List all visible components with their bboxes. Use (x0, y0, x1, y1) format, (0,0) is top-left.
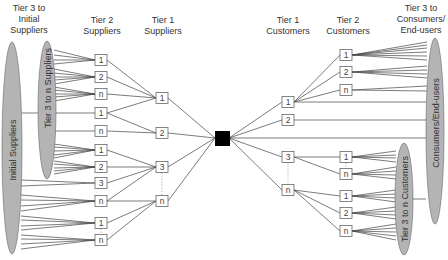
tier2-supplier-node-label: n (99, 196, 104, 206)
tier2-supplier-node-label: 2 (99, 72, 104, 82)
tier1-customer-node: 3 (282, 152, 294, 163)
tier2-supplier-node-label: n (99, 235, 104, 245)
tier2-supplier-node: 1 (95, 55, 107, 66)
tier1-supplier-node-label: 1 (160, 93, 165, 103)
tier1-supplier-node-label: 3 (160, 162, 165, 172)
tier2-supplier-node: n (95, 235, 107, 246)
supply-chain-diagram: Initial Suppliers Tier 3 to n Suppliers … (0, 0, 448, 260)
tier2-supplier-node-label: 1 (99, 108, 104, 118)
tier2-customer-node: 1 (340, 191, 352, 202)
tier3-n-customers-label: Tier 3 to n Customers (400, 155, 410, 242)
tier2-customer-node: 1 (340, 152, 352, 163)
tier1-customer-node-label: 1 (286, 97, 291, 107)
tier2-customer-node-label: 1 (344, 191, 349, 201)
tier2-customer-node: n (340, 226, 352, 237)
tier2-customer-node-label: 1 (344, 50, 349, 60)
tier1-customer-node: n (282, 185, 294, 196)
tier2-supplier-node: n (95, 196, 107, 207)
tier2-supplier-node-label: 1 (99, 145, 104, 155)
tier1-customer-node: 1 (282, 97, 294, 108)
initial-suppliers-ellipse: Initial Suppliers (2, 42, 22, 254)
initial-suppliers-label: Initial Suppliers (8, 119, 18, 181)
tier1-customer-node-label: 3 (286, 152, 291, 162)
tier1-customer-node-label: 2 (286, 115, 291, 125)
tier1-supplier-node: 2 (156, 128, 168, 139)
tier1-supplier-node: 1 (156, 93, 168, 104)
tier2-supplier-node: n (95, 89, 107, 100)
tier2-customer-node: 1 (340, 50, 352, 61)
tier2-customer-node: n (340, 85, 352, 96)
tier3-n-suppliers-label: Tier 3 to n Suppliers (43, 47, 53, 128)
tier2-supplier-node: 1 (95, 218, 107, 229)
tier1-supplier-node: 3 (156, 162, 168, 173)
tier2-supplier-node-label: n (99, 126, 104, 136)
tier2-supplier-node-label: 1 (99, 55, 104, 65)
tier2-supplier-node-label: n (99, 89, 104, 99)
focal-company-node (215, 131, 230, 146)
node-boxes: 12n1n123n1n123n123n12n1n12n (95, 50, 352, 246)
tier2-customer-node-label: n (344, 85, 349, 95)
tier2-supplier-node: 2 (95, 162, 107, 173)
tier2-customer-node-label: n (344, 226, 349, 236)
tier3-n-customers-ellipse: Tier 3 to n Customers (395, 143, 413, 255)
consumers-end-users-ellipse: Consumers/End-users (426, 38, 444, 224)
tier2-supplier-node-label: 3 (99, 178, 104, 188)
tier2-supplier-node: 1 (95, 145, 107, 156)
tier1-supplier-node-label: n (160, 196, 165, 206)
tier2-customer-node-label: 1 (344, 152, 349, 162)
tier1-customer-node: 2 (282, 115, 294, 126)
tier1-customer-node-label: n (286, 185, 291, 195)
tier2-supplier-node-label: 1 (99, 218, 104, 228)
tier2-supplier-node: n (95, 126, 107, 137)
tier2-customer-node: n (340, 169, 352, 180)
tier2-supplier-node: 2 (95, 72, 107, 83)
tier1-supplier-node: n (156, 196, 168, 207)
tier2-customer-node: 2 (340, 67, 352, 78)
tier2-supplier-node: 3 (95, 178, 107, 189)
tier2-customer-node-label: n (344, 169, 349, 179)
tier2-customer-node-label: 2 (344, 208, 349, 218)
tier2-supplier-node: 1 (95, 108, 107, 119)
tier1-supplier-node-label: 2 (160, 128, 165, 138)
tier3-n-suppliers-ellipse: Tier 3 to n Suppliers (38, 41, 56, 179)
tier2-supplier-node-label: 2 (99, 162, 104, 172)
tier2-customer-node-label: 2 (344, 67, 349, 77)
consumers-end-users-label: Consumers/End-users (431, 78, 441, 168)
tier2-customer-node: 2 (340, 208, 352, 219)
